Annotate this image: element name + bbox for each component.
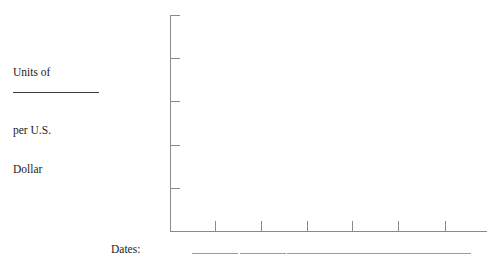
x-tick-3 <box>307 221 308 231</box>
x-tick-2 <box>261 221 262 231</box>
y-axis-line <box>170 15 171 232</box>
y-tick-6 <box>170 231 180 232</box>
y-tick-3 <box>170 101 180 102</box>
y-axis-label: Units of per U.S. Dollar <box>13 66 105 202</box>
x-axis-line <box>170 231 487 232</box>
y-tick-2 <box>170 58 180 59</box>
date-blank-2[interactable] <box>240 253 286 254</box>
x-tick-6 <box>445 221 446 231</box>
date-blank-1[interactable] <box>192 253 238 254</box>
y-axis-label-denominator: per U.S. Dollar <box>13 98 105 202</box>
date-blank-6[interactable] <box>425 253 471 254</box>
x-tick-1 <box>215 221 216 231</box>
y-axis-label-fraction-bar <box>13 92 99 93</box>
worksheet-canvas: Units of per U.S. Dollar Dates: <box>0 0 502 271</box>
x-tick-5 <box>398 221 399 231</box>
y-axis-label-numerator: Units of <box>13 66 105 79</box>
date-blank-5[interactable] <box>379 253 425 254</box>
y-axis-label-denominator-line-2: Dollar <box>13 163 105 176</box>
date-blank-3[interactable] <box>287 253 333 254</box>
y-tick-4 <box>170 145 180 146</box>
x-tick-4 <box>352 221 353 231</box>
y-tick-5 <box>170 188 180 189</box>
y-tick-1 <box>170 15 180 16</box>
y-axis-label-denominator-line-1: per U.S. <box>13 124 105 137</box>
date-blank-4[interactable] <box>333 253 379 254</box>
x-axis-label: Dates: <box>111 243 140 256</box>
